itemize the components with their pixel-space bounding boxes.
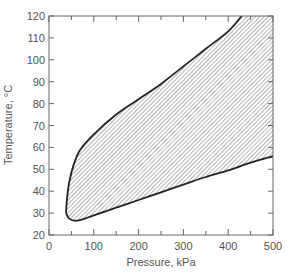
- x-tick-label: 200: [129, 240, 147, 252]
- y-tick-label: 40: [33, 185, 45, 197]
- y-tick-label: 70: [33, 120, 45, 132]
- y-tick-label: 20: [33, 229, 45, 241]
- y-tick-label: 110: [27, 32, 45, 44]
- chart-canvas: 2030405060708090100110120 01002003004005…: [0, 0, 291, 278]
- x-axis-title: Pressure, kPa: [126, 256, 196, 268]
- x-tick-label: 100: [85, 240, 103, 252]
- y-tick-label: 100: [27, 54, 45, 66]
- y-tick-label: 120: [27, 10, 45, 22]
- x-tick-label: 0: [46, 240, 52, 252]
- x-axis-tick-labels: 0100200300400500: [46, 240, 282, 252]
- y-tick-label: 30: [33, 207, 45, 219]
- x-tick-label: 500: [264, 240, 282, 252]
- y-tick-label: 90: [33, 76, 45, 88]
- x-tick-label: 400: [219, 240, 237, 252]
- y-tick-label: 50: [33, 163, 45, 175]
- y-tick-label: 60: [33, 141, 45, 153]
- x-tick-label: 300: [174, 240, 192, 252]
- y-axis-title: Temperature, °C: [2, 85, 14, 165]
- y-axis-tick-labels: 2030405060708090100110120: [27, 10, 45, 241]
- y-tick-label: 80: [33, 98, 45, 110]
